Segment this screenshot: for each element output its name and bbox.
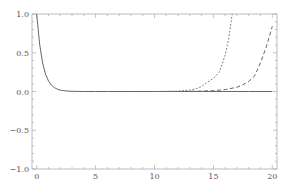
x-tick-label: 0 bbox=[34, 172, 39, 181]
y-axis-tick-labels: −1.0−0.50.00.51.0 bbox=[10, 10, 29, 174]
series-solid-line bbox=[37, 14, 273, 92]
x-tick-label: 15 bbox=[208, 172, 218, 181]
series-dotted-line bbox=[155, 14, 233, 92]
y-tick-label: 1.0 bbox=[16, 10, 29, 19]
y-tick-label: 0.0 bbox=[16, 88, 29, 97]
line-chart: 05101520 −1.0−0.50.00.51.0 bbox=[0, 0, 293, 194]
x-tick-label: 20 bbox=[267, 172, 277, 181]
series-dashed-line bbox=[178, 26, 272, 91]
y-tick-label: 0.5 bbox=[16, 49, 29, 58]
y-tick-label: −1.0 bbox=[10, 165, 29, 174]
data-series bbox=[37, 14, 273, 92]
x-tick-label: 5 bbox=[93, 172, 98, 181]
x-tick-label: 10 bbox=[149, 172, 159, 181]
y-tick-label: −0.5 bbox=[10, 126, 29, 135]
x-axis-tick-labels: 05101520 bbox=[34, 172, 277, 181]
